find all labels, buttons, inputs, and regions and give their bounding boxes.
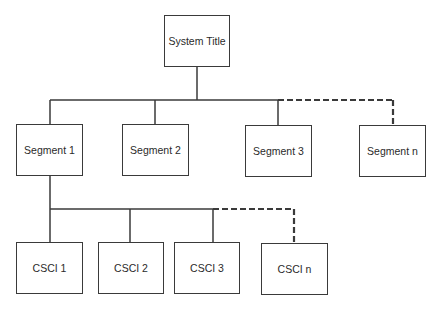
segment-1-label: Segment 1 bbox=[24, 144, 75, 156]
segment-n-label: Segment n bbox=[367, 145, 418, 157]
hierarchy-diagram: System Title Segment 1 Segment 2 Segment… bbox=[0, 0, 438, 309]
segment-2-box: Segment 2 bbox=[122, 124, 189, 176]
csci-2-box: CSCI 2 bbox=[98, 242, 164, 294]
csci-n-label: CSCI n bbox=[278, 263, 312, 275]
segment-3-label: Segment 3 bbox=[253, 145, 304, 157]
csci-1-box: CSCI 1 bbox=[16, 242, 83, 294]
system-title-label: System Title bbox=[168, 35, 225, 47]
segment-2-label: Segment 2 bbox=[130, 144, 181, 156]
segment-n-box: Segment n bbox=[359, 125, 426, 177]
csci-3-label: CSCI 3 bbox=[190, 262, 224, 274]
csci-2-label: CSCI 2 bbox=[114, 262, 148, 274]
csci-1-label: CSCI 1 bbox=[33, 262, 67, 274]
csci-3-box: CSCI 3 bbox=[174, 242, 240, 294]
csci-n-box: CSCI n bbox=[261, 243, 328, 295]
system-title-box: System Title bbox=[164, 15, 230, 67]
segment-1-box: Segment 1 bbox=[16, 124, 83, 176]
segment-3-box: Segment 3 bbox=[245, 125, 312, 177]
